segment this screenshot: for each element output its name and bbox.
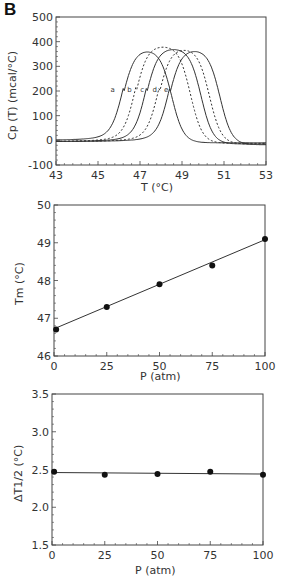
plot-frame	[52, 394, 263, 545]
y-axis-label: ΔT1/2 (°C)	[12, 445, 25, 502]
y-tick-label: 3.0	[32, 426, 50, 439]
figure-canvas: 434547495153-1000100200300400500 abcde T…	[0, 0, 282, 585]
data-curves	[56, 47, 266, 145]
y-tick-label: 100	[32, 110, 53, 123]
data-point	[155, 471, 161, 477]
y-tick-label: 300	[32, 60, 53, 73]
x-tick-label: 100	[255, 360, 276, 373]
data-point	[209, 262, 215, 268]
x-tick-label: 45	[91, 169, 105, 182]
y-tick-label: -100	[28, 159, 53, 172]
y-tick-label: 2.5	[32, 464, 50, 477]
y-axis-label: Tm (°C)	[13, 262, 26, 306]
curve-d	[56, 50, 266, 144]
x-tick-label: 50	[151, 549, 165, 562]
y-tick-label: 0	[46, 134, 53, 147]
curve-label-c: c	[140, 86, 144, 94]
x-axis-label: P (atm)	[135, 564, 175, 577]
y-tick-label: 2.0	[32, 501, 50, 514]
data-point	[262, 236, 268, 242]
y-tick-label: 200	[32, 85, 53, 98]
y-tick-label: 46	[37, 350, 51, 363]
y-tick-label: 48	[37, 275, 51, 288]
x-tick-label: 75	[205, 360, 219, 373]
x-axis-label: P (atm)	[140, 370, 180, 383]
data-point	[157, 281, 163, 287]
x-tick-label: 100	[253, 549, 274, 562]
y-tick-label: 49	[37, 237, 51, 250]
y-tick-label: 400	[32, 36, 53, 49]
x-tick-label: 0	[51, 360, 58, 373]
y-tick-label: 50	[37, 199, 51, 212]
y-tick-label: 3.5	[32, 388, 50, 401]
cp-curves-plot: 434547495153-1000100200300400500 abcde T…	[6, 11, 273, 194]
axis-ticks: 434547495153-1000100200300400500	[28, 11, 273, 182]
plot-frame	[54, 205, 265, 356]
fit-line-and-points	[53, 236, 268, 333]
x-tick-label: 49	[175, 169, 189, 182]
y-tick-label: 1.5	[32, 539, 50, 552]
x-tick-label: 25	[100, 360, 114, 373]
curve-label-d: d	[152, 86, 156, 94]
x-tick-label: 53	[259, 169, 273, 182]
y-tick-label: 500	[32, 11, 53, 24]
curve-label-e: e	[164, 86, 168, 94]
fit-line-and-points	[51, 469, 266, 478]
data-point	[104, 304, 110, 310]
x-axis-label: T (°C)	[140, 181, 173, 194]
data-point	[260, 472, 266, 478]
x-tick-label: 25	[98, 549, 112, 562]
curve-label-b: b	[127, 86, 132, 94]
x-tick-label: 75	[203, 549, 217, 562]
data-point	[207, 469, 213, 475]
y-tick-label: 47	[37, 312, 51, 325]
curve-a	[56, 52, 266, 143]
curve-c	[56, 50, 266, 144]
data-point	[53, 327, 59, 333]
axis-ticks: 02550751001.52.02.53.03.5	[32, 388, 274, 562]
x-tick-label: 51	[217, 169, 231, 182]
dt-half-vs-pressure-plot: 02550751001.52.02.53.03.5 P (atm) ΔT1/2 …	[12, 388, 274, 577]
y-axis-label: Cp (T) (mcal/°C)	[6, 51, 19, 140]
data-point	[102, 472, 108, 478]
curve-label-a: a	[111, 86, 115, 94]
data-point	[51, 469, 57, 475]
tm-vs-pressure-plot: 02550751004647484950 P (atm) Tm (°C)	[13, 199, 276, 383]
curve-e	[56, 52, 266, 145]
x-tick-label: 0	[49, 549, 56, 562]
